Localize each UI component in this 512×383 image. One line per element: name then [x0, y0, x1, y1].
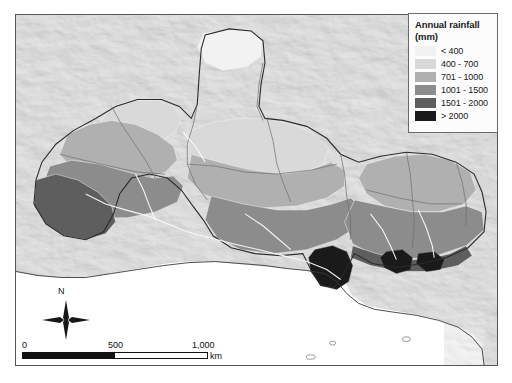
scale-bar-segment-filled — [23, 353, 115, 358]
legend-swatch-1001-1500 — [415, 85, 436, 95]
scale-bar: 0 500 1,000 km — [22, 340, 222, 364]
legend-panel[interactable]: Annual rainfall (mm) < 400 400 - 700 701… — [408, 13, 498, 133]
legend-swatch-400-700 — [415, 59, 436, 69]
legend-row-lt400[interactable]: < 400 — [415, 44, 492, 57]
legend-swatch-gt2000 — [415, 111, 436, 121]
legend-title-line2: (mm) — [415, 31, 492, 43]
legend-label-400-700: 400 - 700 — [441, 59, 478, 69]
scale-bar-segment-empty — [115, 353, 207, 358]
compass-star-icon — [40, 298, 92, 342]
north-arrow-label: N — [58, 286, 65, 296]
scale-bar-track — [22, 352, 208, 359]
legend-label-1001-1500: 1001 - 1500 — [441, 85, 488, 95]
legend-row-400-700[interactable]: 400 - 700 — [415, 57, 492, 70]
legend-entries: < 400 400 - 700 701 - 1000 1001 - 1500 1… — [415, 44, 492, 122]
legend-label-gt2000: > 2000 — [441, 111, 468, 121]
legend-row-1001-1500[interactable]: 1001 - 1500 — [415, 83, 492, 96]
legend-swatch-1501-2000 — [415, 98, 436, 108]
north-arrow: N — [40, 286, 92, 342]
legend-label-701-1000: 701 - 1000 — [441, 72, 483, 82]
legend-label-1501-2000: 1501 - 2000 — [441, 98, 488, 108]
offshore-relief — [444, 313, 484, 365]
legend-label-lt400: < 400 — [441, 46, 463, 56]
scale-tick-1000: 1,000 — [192, 340, 215, 350]
scale-tick-0: 0 — [22, 340, 27, 350]
legend-swatch-701-1000 — [415, 72, 436, 82]
map-page: N 0 500 1,000 km Annual rainfall (mm) — [0, 0, 512, 383]
scale-tick-500: 500 — [108, 340, 123, 350]
legend-row-701-1000[interactable]: 701 - 1000 — [415, 70, 492, 83]
scale-bar-unit: km — [210, 351, 222, 361]
legend-swatch-lt400 — [415, 46, 436, 56]
legend-row-gt2000[interactable]: > 2000 — [415, 109, 492, 122]
legend-title-line1: Annual rainfall — [415, 19, 492, 31]
scale-bar-labels: 0 500 1,000 — [22, 340, 222, 351]
legend-row-1501-2000[interactable]: 1501 - 2000 — [415, 96, 492, 109]
